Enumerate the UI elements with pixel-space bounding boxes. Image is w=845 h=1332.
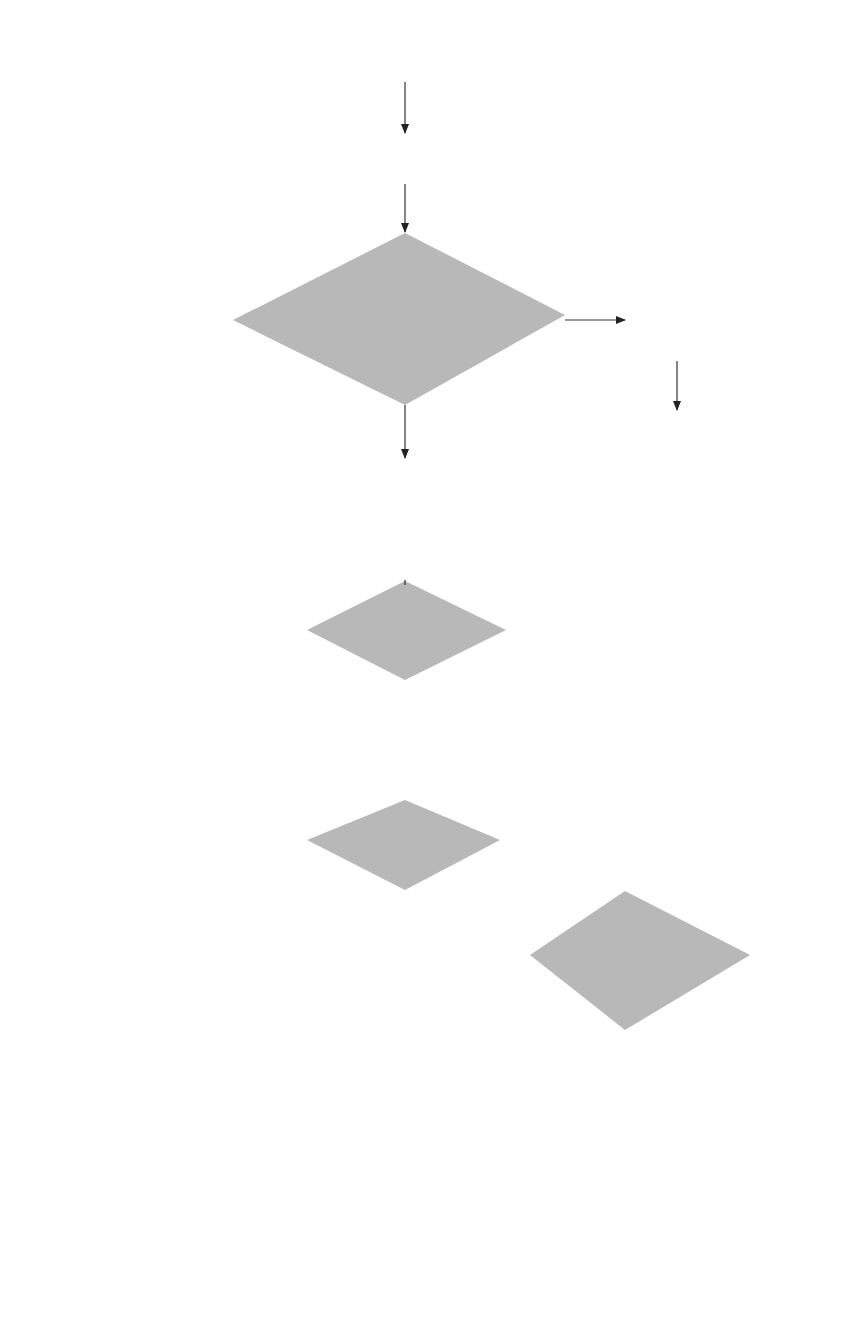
decision-accept-shape [233, 233, 565, 405]
flowchart-canvas [0, 0, 845, 1332]
decision-reduce-shape [307, 800, 500, 890]
decision-rhs-shape [530, 891, 750, 1030]
decision-blank-shape [307, 581, 506, 680]
